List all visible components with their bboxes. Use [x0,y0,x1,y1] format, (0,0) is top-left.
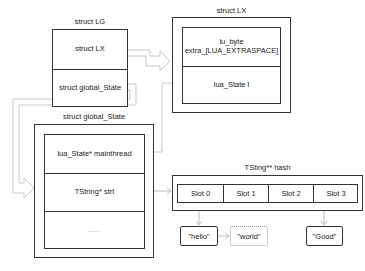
hash-slots-row: Slot 0 Slot 1 Slot 2 Slot 3 [177,184,358,203]
struct-global-state-title: struct global_State [34,112,154,121]
struct-lx-field-extra: lu_byte extra_[LUA_EXTRASPACE] [183,28,280,66]
line-hello-to-world [217,233,229,239]
hash-slot-1: Slot 1 [223,185,268,202]
struct-lx-outer-box: lu_byte extra_[LUA_EXTRASPACE] lua_State… [172,17,291,113]
struct-global-state-outer-box: lua_State* mainthread TString* strt ....… [34,124,154,258]
hash-slot-2: Slot 2 [268,185,313,202]
struct-lg-title: struct LG [52,17,128,26]
string-node-good: "Good" [306,226,343,246]
hash-slot-0: Slot 0 [178,185,223,202]
struct-lg-field-global-state: struct global_State [53,69,127,106]
struct-lx-inner-box: lu_byte extra_[LUA_EXTRASPACE] lua_State… [182,27,281,104]
string-node-world: "world" [230,226,268,246]
string-node-hello: "hello" [180,226,218,246]
struct-lg-field-lx: struct LX [53,30,127,69]
hash-table-outer-box: Slot 0 Slot 1 Slot 2 Slot 3 [172,175,363,211]
hash-table-title: TSting** hash [172,163,363,172]
global-state-field-mainthread: lua_State* mainthread [45,135,144,173]
struct-global-state-inner-box: lua_State* mainthread TString* strt ....… [44,134,145,249]
global-state-field-ellipsis: ...... [45,211,144,248]
global-state-field-strt: TString* strt [45,173,144,211]
struct-lx-field-lua-state: lua_State l [183,66,280,103]
hash-slot-3: Slot 3 [313,185,358,202]
struct-lx-title: struct LX [172,6,291,15]
hollow-arrow-lg-to-lx [127,50,170,71]
struct-lg-box: struct LX struct global_State [52,29,128,107]
